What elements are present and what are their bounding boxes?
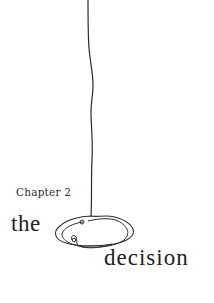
scribble-knot-bottom [72, 238, 76, 242]
chapter-number-label: Chapter 2 [16, 186, 71, 198]
chapter-title-word-the: the [11, 211, 41, 237]
hanging-line [88, 0, 93, 216]
chapter-title-page: Chapter 2 the decision [0, 0, 214, 303]
scribble-loop-inner [62, 219, 128, 248]
chapter-title-word-decision: decision [104, 245, 189, 271]
